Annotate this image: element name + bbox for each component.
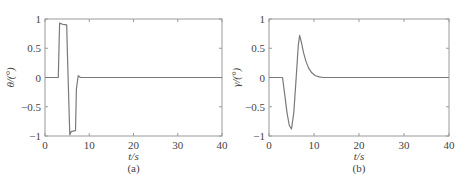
series-line-theta xyxy=(45,23,222,135)
y-tick-label: −0.5 xyxy=(21,101,41,113)
y-tick-label: 0 xyxy=(36,72,42,84)
y-tick-label: 0 xyxy=(260,72,266,84)
y-tick-label: 1 xyxy=(260,13,266,25)
figure: 010203040−1−0.500.51t/sθ/(°)(a) 01020304… xyxy=(0,0,465,183)
x-axis-label: t/s xyxy=(128,150,138,162)
x-axis-label: t/s xyxy=(354,150,364,162)
y-tick-label: −1 xyxy=(29,130,41,142)
panel-caption: (b) xyxy=(353,162,366,175)
x-tick-label: 30 xyxy=(172,139,184,151)
y-tick-label: −0.5 xyxy=(245,101,265,113)
panel-caption: (a) xyxy=(127,162,140,175)
y-tick-label: 1 xyxy=(36,13,42,25)
y-tick-label: 0.5 xyxy=(27,42,41,54)
y-tick-label: 0.5 xyxy=(251,42,265,54)
chart-panel-b: 010203040−1−0.500.51t/sγ/(°)(b) xyxy=(230,13,455,175)
x-tick-label: 30 xyxy=(399,139,411,151)
y-axis-label: γ/(°) xyxy=(230,68,243,87)
x-tick-label: 0 xyxy=(266,139,272,151)
x-tick-label: 10 xyxy=(309,139,321,151)
chart-panel-a: 010203040−1−0.500.51t/sθ/(°)(a) xyxy=(4,13,228,175)
x-tick-label: 40 xyxy=(217,139,229,151)
x-tick-label: 10 xyxy=(84,139,96,151)
series-line-gamma xyxy=(269,35,449,129)
x-tick-label: 40 xyxy=(444,139,456,151)
y-axis-label: θ/(°) xyxy=(4,67,17,88)
y-tick-label: −1 xyxy=(253,130,265,142)
x-tick-label: 0 xyxy=(42,139,48,151)
